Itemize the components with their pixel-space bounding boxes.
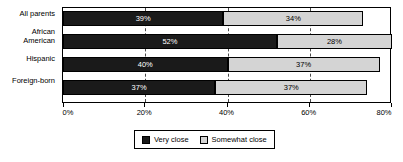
bar-segment-very-close[interactable]: 37% (63, 80, 215, 95)
x-tick-mark-0 (63, 103, 64, 107)
category-label-line: American (23, 36, 55, 45)
bar-segment-very-close[interactable]: 39% (63, 11, 223, 26)
legend-swatch-light-icon (200, 136, 208, 144)
legend-item-very-close[interactable]: Very close (142, 135, 189, 144)
legend-swatch-dark-icon (142, 136, 150, 144)
bar-value-label: 28% (327, 38, 342, 46)
stacked-bar-chart: All parents African American Hispanic Fo… (0, 0, 403, 162)
x-axis: 0% 20% 40% 60% 80% (62, 103, 391, 121)
bar-segment-somewhat-close[interactable]: 28% (277, 34, 392, 49)
category-label-hispanic: Hispanic (0, 55, 55, 64)
chart-legend: Very close Somewhat close (134, 130, 275, 149)
category-label-line: All parents (20, 9, 55, 18)
bar-value-label: 34% (286, 15, 301, 23)
bar-segment-very-close[interactable]: 52% (63, 34, 277, 49)
bar-value-label: 37% (284, 84, 299, 92)
x-tick-mark-40 (227, 103, 228, 107)
legend-label: Somewhat close (212, 135, 267, 144)
x-tick-label-60: 60% (301, 108, 316, 117)
x-tick-mark-20 (144, 103, 145, 107)
legend-label: Very close (154, 135, 189, 144)
x-tick-mark-60 (309, 103, 310, 107)
bar-value-label: 37% (132, 84, 147, 92)
x-tick-label-80: 80% (376, 108, 391, 117)
category-axis-labels: All parents African American Hispanic Fo… (0, 8, 58, 103)
bar-value-label: 52% (162, 38, 177, 46)
plot-area: 39% 34% 52% 28% 40% (62, 7, 391, 103)
category-label-foreign-born: Foreign-born (0, 77, 55, 86)
bar-segment-somewhat-close[interactable]: 37% (228, 57, 380, 72)
legend-item-somewhat-close[interactable]: Somewhat close (200, 135, 267, 144)
category-label-line: Hispanic (26, 54, 55, 63)
category-label-all-parents: All parents (0, 10, 55, 19)
x-tick-label-0: 0% (63, 108, 74, 117)
x-tick-label-20: 20% (137, 108, 152, 117)
bar-value-label: 39% (136, 15, 151, 23)
plot-inner: 39% 34% 52% 28% 40% (63, 8, 390, 102)
bar-segment-very-close[interactable]: 40% (63, 57, 228, 72)
x-tick-label-40: 40% (219, 108, 234, 117)
category-label-line: Foreign-born (12, 76, 55, 85)
bar-segment-somewhat-close[interactable]: 37% (215, 80, 367, 95)
bar-value-label: 40% (138, 61, 153, 69)
x-tick-mark-80 (391, 103, 392, 107)
category-label-african-american: African American (0, 28, 55, 45)
bar-segment-somewhat-close[interactable]: 34% (223, 11, 363, 26)
bar-value-label: 37% (296, 61, 311, 69)
